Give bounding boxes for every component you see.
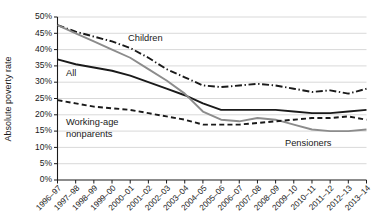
series-lines xyxy=(58,25,367,131)
y-axis-ticks: 0%5%10%15%20%25%30%35%40%45%50% xyxy=(35,11,58,184)
y-tick-label: 25% xyxy=(35,93,52,103)
annotation-label: Working-age xyxy=(66,117,119,127)
annotation-label: Children xyxy=(128,33,163,43)
x-axis-ticks: 1996–971997–981998–991999–002000–012001–… xyxy=(34,180,372,212)
y-tick-label: 45% xyxy=(35,28,52,38)
annotation-label: All xyxy=(66,68,76,78)
y-tick-label: 20% xyxy=(35,109,52,119)
series-line-pensioners xyxy=(58,25,367,131)
y-tick-label: 50% xyxy=(35,11,52,21)
y-tick-label: 0% xyxy=(40,174,53,184)
series-line-children xyxy=(58,25,367,93)
y-tick-label: 40% xyxy=(35,44,52,54)
y-tick-label: 35% xyxy=(35,60,52,70)
absolute-poverty-rate-chart: 0%5%10%15%20%25%30%35%40%45%50% 1996–971… xyxy=(0,0,376,222)
y-axis-title: Absolute poverty rate xyxy=(3,56,13,141)
chart-canvas: 0%5%10%15%20%25%30%35%40%45%50% 1996–971… xyxy=(0,0,376,222)
y-tick-label: 15% xyxy=(35,125,52,135)
y-tick-label: 10% xyxy=(35,142,52,152)
y-tick-label: 5% xyxy=(40,158,53,168)
annotation-label: Pensioners xyxy=(285,138,332,148)
annotation-label: nonparents xyxy=(66,129,113,139)
y-tick-label: 30% xyxy=(35,76,52,86)
